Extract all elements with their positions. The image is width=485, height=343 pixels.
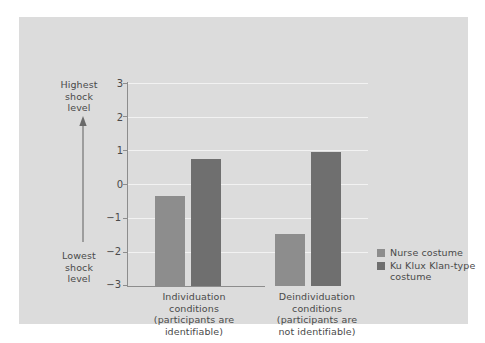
up-arrow-icon [77,116,89,242]
y-axis-low-caption: Lowest shock level [48,250,110,285]
y-tick-label-1: 1 [105,145,123,156]
y-tick-label-0: 0 [105,179,123,190]
y-tick-label-neg1: −1 [103,212,121,223]
y-tick-mark-neg2 [123,252,127,253]
gridline-2 [128,117,368,118]
x-category-label-deindividuation: Deindividuation conditions (participants… [252,291,382,338]
gridline-3 [128,83,368,84]
plot-area [128,83,368,286]
y-tick-mark-neg3 [123,285,127,286]
y-axis-high-caption-line-2: shock [48,91,110,103]
gridline-1 [128,150,368,151]
y-axis-high-caption-line-3: level [48,102,110,114]
y-tick-mark-3 [123,83,127,84]
y-axis-high-caption-line-1: Highest [48,79,110,91]
legend-label-nurse: Nurse costume [390,247,463,259]
y-tick-label-neg2: −2 [103,246,121,257]
x-category-label-individuation-line-1: Individuation [129,291,259,303]
y-tick-mark-1 [123,150,127,151]
bar-individuation-klan [191,159,221,286]
y-tick-mark-2 [123,116,127,117]
y-axis-low-caption-line-2: shock [48,262,110,274]
x-category-label-deindividuation-line-1: Deindividuation [252,291,382,303]
x-category-label-deindividuation-line-4: not identifiable) [252,326,382,338]
x-category-label-individuation-line-3: (participants are [129,314,259,326]
x-category-label-individuation: Individuation conditions (participants a… [129,291,259,338]
y-tick-label-neg3: −3 [103,279,121,290]
x-category-label-individuation-line-2: conditions [129,303,259,315]
chart-panel: Highest shock level Lowest shock level 3… [19,17,468,324]
bar-deindividuation-klan [311,152,341,286]
bar-individuation-nurse [155,196,185,286]
chart-legend: Nurse costume Ku Klux Klan-type costume [377,247,485,284]
bar-deindividuation-nurse [275,234,305,286]
y-tick-label-3: 3 [105,78,123,89]
legend-label-klan: Ku Klux Klan-type costume [390,260,485,283]
y-axis-low-caption-line-3: level [48,273,110,285]
chart-figure: Highest shock level Lowest shock level 3… [0,0,485,343]
x-category-label-individuation-line-4: identifiable) [129,326,259,338]
legend-swatch-nurse-icon [377,249,385,257]
y-tick-mark-0 [123,184,127,185]
legend-swatch-klan-icon [377,262,385,270]
y-tick-mark-neg1 [123,218,127,219]
y-tick-label-2: 2 [105,112,123,123]
y-axis-low-caption-line-1: Lowest [48,250,110,262]
legend-item-nurse: Nurse costume [377,247,485,259]
x-category-label-deindividuation-line-2: conditions [252,303,382,315]
y-axis-high-caption: Highest shock level [48,79,110,114]
x-category-label-deindividuation-line-3: (participants are [252,314,382,326]
x-axis-line [127,286,265,287]
legend-item-klan: Ku Klux Klan-type costume [377,260,485,283]
